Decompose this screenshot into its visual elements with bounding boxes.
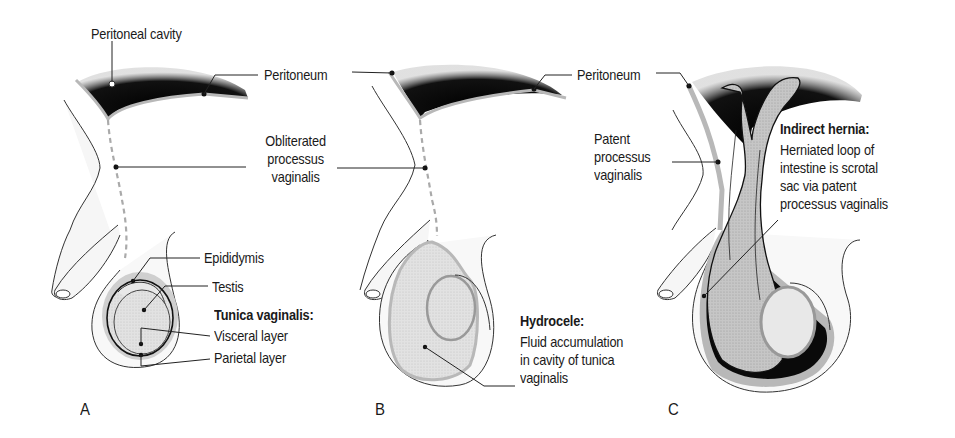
label-peritoneum-b: Peritoneum: [577, 66, 640, 84]
label-line: in cavity of tunica: [520, 351, 623, 369]
label-line: processus: [256, 150, 335, 168]
label-epididymis: Epididymis: [204, 249, 264, 267]
label-tunica-vaginalis: Tunica vaginalis:: [214, 306, 314, 324]
label-line: Fluid accumulation: [520, 333, 623, 351]
panel-letter-c: C: [668, 400, 679, 420]
label-obliterated-processus-vaginalis: Obliterated processus vaginalis: [256, 132, 335, 186]
label-line: processus: [594, 148, 651, 166]
label-line: vaginalis: [520, 369, 623, 387]
panel-c-drawing: [656, 66, 862, 392]
label-patent-processus-vaginalis: Patent processus vaginalis: [594, 130, 651, 184]
label-hydrocele-description: Fluid accumulation in cavity of tunica v…: [520, 333, 623, 387]
panel-letter-b: B: [375, 400, 385, 420]
label-indirect-hernia-description: Herniated loop of intestine is scrotal s…: [780, 141, 888, 213]
label-line: Herniated loop of: [780, 141, 888, 159]
label-line: processus vaginalis: [780, 195, 888, 213]
label-line: Obliterated: [256, 132, 335, 150]
label-line: Patent: [594, 130, 651, 148]
label-line: vaginalis: [256, 168, 335, 186]
label-peritoneum-a: Peritoneum: [264, 66, 327, 84]
label-line: vaginalis: [594, 166, 651, 184]
label-testis: Testis: [212, 278, 244, 296]
label-peritoneal-cavity: Peritoneal cavity: [91, 25, 182, 43]
panel-letter-a: A: [80, 400, 90, 420]
label-hydrocele-title: Hydrocele:: [520, 312, 584, 330]
label-visceral-layer: Visceral layer: [214, 327, 288, 345]
label-line: intestine is scrotal: [780, 159, 888, 177]
diagram-artwork: [0, 0, 955, 438]
label-parietal-layer: Parietal layer: [214, 349, 286, 367]
label-line: sac via patent: [780, 177, 888, 195]
label-indirect-hernia-title: Indirect hernia:: [780, 120, 869, 138]
